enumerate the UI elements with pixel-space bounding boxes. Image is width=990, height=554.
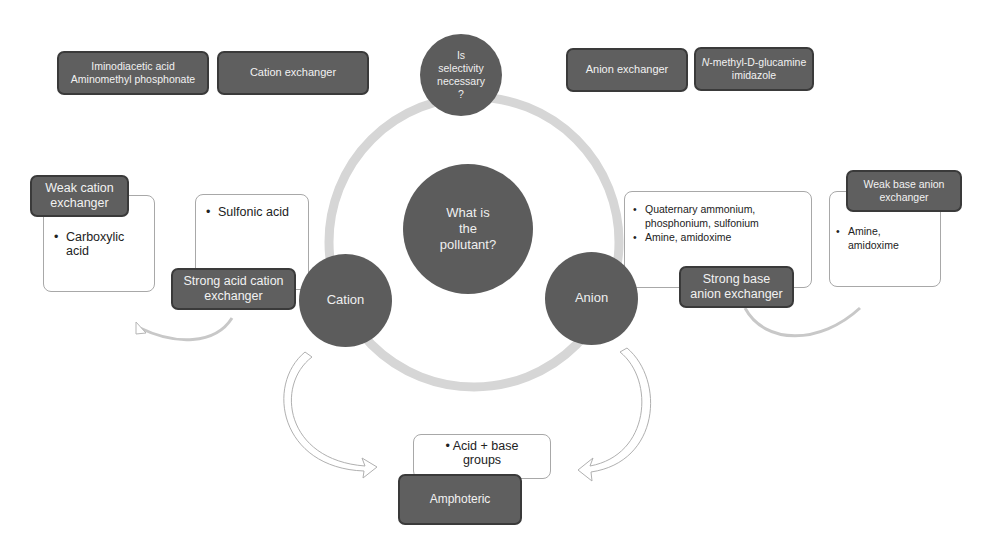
functional-group-item: Amine, amidoxime [633, 230, 803, 244]
selectivity-node: Is selectivity necessary ? [420, 34, 502, 116]
weak-cation-exchanger-title: Weak cation exchanger [30, 175, 129, 217]
node-label: Cation [327, 292, 365, 308]
chelating-groups-cation-box: Iminodiacetic acid Aminomethyl phosphona… [57, 51, 209, 95]
functional-group-item: • Acid + base groups [422, 439, 542, 467]
node-label: Is [437, 49, 485, 62]
node-label: necessary [437, 75, 485, 88]
chelating-groups-anion-box: N-methyl-D-glucamine imidazole [694, 47, 814, 91]
strong-base-anion-exchanger-title: Strong base anion exchanger [679, 266, 794, 308]
curved-arrow-anion-to-amphoteric [578, 348, 651, 481]
functional-group-item: Carboxylic acid [54, 230, 146, 258]
node-label: Anion [575, 290, 608, 306]
arrow-head-icon [136, 322, 146, 334]
node-label: selectivity [437, 62, 485, 75]
chelating-group-label: Iminodiacetic acid [71, 60, 195, 73]
amphoteric-title: Amphoteric [398, 474, 522, 525]
anion-node: Anion [545, 252, 638, 345]
strong-acid-cation-exchanger-title: Strong acid cation exchanger [171, 268, 296, 310]
weak-base-anion-exchanger-title: Weak base anion exchanger [846, 170, 962, 212]
pollutant-center-node: What is the pollutant? [403, 164, 533, 294]
cation-exchanger-box: Cation exchanger [217, 51, 369, 95]
cation-exchanger-label: Cation exchanger [250, 66, 336, 79]
node-label: the [440, 221, 496, 237]
amphoteric-content-box: • Acid + base groups [413, 434, 551, 479]
cation-node: Cation [299, 254, 392, 347]
chelating-group-label: Aminomethyl phosphonate [71, 73, 195, 86]
node-label: ? [437, 88, 485, 101]
curved-arrow-cation-to-amphoteric [284, 352, 377, 478]
curved-arrow-strong-to-weak-anion [745, 308, 860, 336]
anion-exchanger-label: Anion exchanger [586, 63, 669, 76]
anion-exchanger-box: Anion exchanger [566, 48, 688, 92]
curved-arrow-strong-to-weak-cation [140, 318, 232, 340]
chelating-group-label: imidazole [702, 69, 806, 82]
chelating-group-label: N-methyl-D-glucamine [702, 56, 806, 69]
functional-group-item: Amine, amidoxime [836, 224, 932, 252]
node-label: What is [440, 205, 496, 221]
functional-group-item: Sulfonic acid [206, 205, 300, 219]
functional-group-item: Quaternary ammonium, phosphonium, sulfon… [633, 202, 803, 230]
node-label: pollutant? [440, 237, 496, 253]
